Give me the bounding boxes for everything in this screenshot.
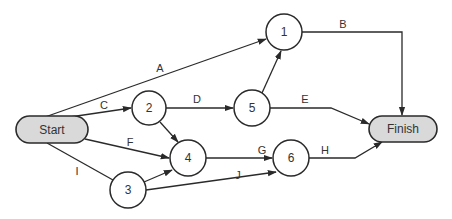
node-4-label: 4 [185, 151, 192, 165]
node-4: 4 [170, 140, 206, 176]
node-2: 2 [132, 91, 166, 125]
start-label: Start [39, 123, 65, 137]
edge-2-4 [160, 122, 178, 142]
edge-label-A: A [156, 62, 164, 74]
edge-label-I: I [75, 165, 78, 177]
node-6-label: 6 [288, 151, 295, 165]
node-5-label: 5 [249, 101, 256, 115]
edge-label-H: H [321, 144, 329, 156]
edge-5-1 [262, 51, 281, 93]
finish-node: Finish [369, 116, 437, 142]
node-5: 5 [234, 90, 270, 126]
finish-label: Finish [387, 122, 419, 136]
edge-label-D: D [193, 93, 201, 105]
edge-label-E: E [301, 93, 308, 105]
edge-label-F: F [127, 136, 134, 148]
node-6: 6 [273, 140, 309, 176]
network-diagram: A B C D E F G H I J Start Finish 1 2 3 4… [0, 0, 452, 219]
edge-label-C: C [100, 99, 108, 111]
edge-3-4 [144, 170, 172, 182]
node-1-label: 1 [281, 25, 288, 39]
edge-E [270, 108, 369, 124]
edge-label-J: J [235, 169, 241, 181]
node-1: 1 [266, 14, 302, 50]
edge-label-G: G [258, 144, 267, 156]
edge-I [47, 143, 113, 180]
start-node: Start [16, 116, 88, 143]
edge-B [302, 32, 402, 115]
node-3: 3 [110, 172, 146, 208]
node-3-label: 3 [125, 183, 132, 197]
node-2-label: 2 [146, 101, 153, 115]
edge-H [309, 142, 382, 158]
edge-label-B: B [339, 18, 346, 30]
edge-J [146, 172, 276, 190]
